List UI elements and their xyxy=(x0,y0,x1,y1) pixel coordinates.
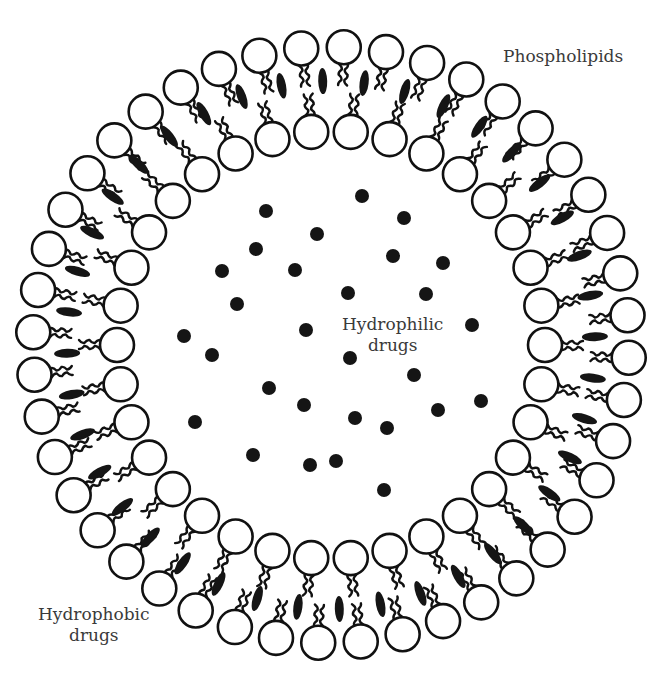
lipid-tail xyxy=(304,94,309,115)
lipid-tail xyxy=(267,71,274,91)
hydrophobic-drug-ellipse xyxy=(275,72,289,99)
hydrophobic-drug-ellipse xyxy=(358,70,370,97)
hydrophilic-drug-dot xyxy=(474,394,488,408)
lipid-tail xyxy=(310,94,315,115)
outer-phospholipid-head xyxy=(486,84,520,118)
outer-phospholipid-head xyxy=(57,478,91,512)
inner-phospholipid-head xyxy=(409,136,443,170)
outer-phospholipid-head xyxy=(38,440,72,474)
outer-phospholipid-head xyxy=(164,71,198,105)
inner-phospholipid-head xyxy=(443,157,477,191)
outer-phospholipid-head xyxy=(242,39,276,73)
lipid-tail xyxy=(338,64,342,85)
hydrophilic-drug-dot xyxy=(177,329,191,343)
inner-phospholipid-head xyxy=(104,289,138,323)
hydrophilic-text-line2: drugs xyxy=(342,335,443,356)
hydrophobic-drug-ellipse xyxy=(318,68,328,94)
hydrophilic-drug-dot xyxy=(377,483,391,497)
outer-phospholipid-head xyxy=(97,123,131,157)
lipid-tail xyxy=(84,389,105,395)
lipid-tail xyxy=(344,65,348,86)
lipid-tail xyxy=(590,319,611,324)
lipid-tail xyxy=(79,340,100,343)
outer-phospholipid-head xyxy=(301,626,335,660)
lipid-tail xyxy=(84,294,105,300)
hydrophilic-drug-dot xyxy=(348,411,362,425)
outer-phospholipid-head xyxy=(32,232,66,266)
lipid-tail xyxy=(303,575,307,596)
outer-phospholipid-head xyxy=(142,572,176,606)
inner-phospholipid-head xyxy=(132,441,166,475)
outer-phospholipid-head xyxy=(344,625,378,659)
lipid-tail xyxy=(176,146,189,163)
lipid-tail xyxy=(559,301,580,307)
outer-phospholipid-head xyxy=(464,585,498,619)
lipid-tail xyxy=(557,390,578,396)
hydrophobic-drugs-label: Hydrophobic drugs xyxy=(38,604,150,646)
hydrophobic-drug-ellipse xyxy=(69,426,97,443)
outer-phospholipid-head xyxy=(499,561,533,595)
lipid-tail xyxy=(358,603,363,624)
outer-phospholipid-head xyxy=(25,400,59,434)
hydrophilic-drug-dot xyxy=(329,454,343,468)
outer-phospholipid-head xyxy=(70,156,104,190)
inner-phospholipid-head xyxy=(156,184,190,218)
lipid-tail xyxy=(375,68,381,89)
hydrophilic-drug-dot xyxy=(303,458,317,472)
lipid-tail xyxy=(51,366,72,371)
lipid-tail xyxy=(348,94,353,115)
hydrophilic-drug-dot xyxy=(246,448,260,462)
outer-phospholipid-head xyxy=(16,315,50,349)
inner-phospholipid-head xyxy=(443,499,477,533)
hydrophilic-drug-dot xyxy=(380,421,394,435)
lipid-tail xyxy=(79,346,100,349)
hydrophilic-drug-dot xyxy=(397,211,411,225)
inner-phospholipid-head xyxy=(156,472,190,506)
inner-phospholipid-head xyxy=(294,541,328,575)
inner-phospholipid-head xyxy=(294,115,328,149)
hydrophobic-drug-ellipse xyxy=(579,372,606,384)
outer-phospholipid-head xyxy=(519,111,553,145)
lipid-tail xyxy=(183,141,196,158)
hydrophilic-drug-dot xyxy=(310,227,324,241)
inner-phospholipid-head xyxy=(373,122,407,156)
hydrophilic-drug-dot xyxy=(249,242,263,256)
lipid-tail xyxy=(587,389,608,395)
lipid-tail xyxy=(589,313,610,318)
hydrophilic-text-line1: Hydrophilic xyxy=(342,314,443,335)
outer-phospholipid-head xyxy=(531,533,565,567)
lipid-tail xyxy=(260,73,267,93)
outer-phospholipid-head xyxy=(369,35,403,69)
outer-phospholipid-head xyxy=(386,617,420,651)
inner-phospholipid-head xyxy=(255,122,289,156)
lipid-tail xyxy=(591,352,612,356)
hydrophilic-drug-dot xyxy=(355,189,369,203)
lipid-tail xyxy=(473,527,486,544)
hydrophobic-drug-ellipse xyxy=(58,388,85,402)
lipid-tail xyxy=(57,403,77,410)
lipid-tail xyxy=(54,295,75,301)
hydrophobic-drug-ellipse xyxy=(374,591,388,618)
lipid-tail xyxy=(320,605,324,626)
hydrophobic-drug-ellipse xyxy=(172,550,194,577)
inner-phospholipid-head xyxy=(219,520,253,554)
lipid-tail xyxy=(51,328,72,332)
phospholipids-text: Phospholipids xyxy=(503,46,623,66)
outer-phospholipid-head xyxy=(17,358,51,392)
phospholipids-label: Phospholipids xyxy=(503,46,623,67)
lipid-tail xyxy=(299,66,304,87)
hydrophobic-drug-ellipse xyxy=(412,580,429,608)
inner-phospholipid-head xyxy=(524,289,558,323)
inner-phospholipid-head xyxy=(114,251,148,285)
outer-phospholipid-head xyxy=(612,341,646,375)
lipid-tail xyxy=(389,599,396,619)
lipid-tail xyxy=(562,341,583,344)
inner-phospholipid-head xyxy=(472,184,506,218)
outer-phospholipid-head xyxy=(580,463,614,497)
lipid-tail xyxy=(56,288,77,294)
lipid-tail xyxy=(355,95,359,116)
phospholipid-heads xyxy=(16,30,645,659)
hydrophilic-drug-dot xyxy=(205,348,219,362)
hydrophobic-text-line2: drugs xyxy=(38,625,150,646)
lipid-tail xyxy=(466,532,479,549)
